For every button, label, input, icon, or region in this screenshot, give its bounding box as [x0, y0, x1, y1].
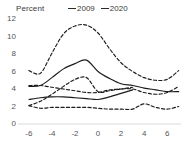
series-group	[29, 25, 179, 110]
line-chart: Percent 2009 2020 121086420 -6-4-20246	[0, 0, 184, 150]
series-line-2020-lower-band	[29, 85, 133, 92]
plot-area	[0, 0, 184, 150]
series-line-2020-upper	[29, 25, 179, 81]
series-line-2009-middle	[29, 90, 133, 100]
series-line-2009-lower	[29, 104, 179, 110]
